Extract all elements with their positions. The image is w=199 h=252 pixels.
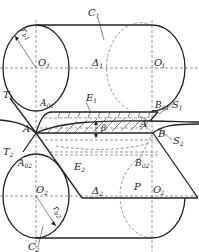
label-o1: O1 (38, 57, 50, 69)
c2-leader (38, 226, 43, 247)
upper-band-hatching (58, 112, 150, 118)
upper-roll (0, 18, 199, 252)
label-p: P (133, 181, 141, 192)
label-o1-prime: O′1 (154, 56, 165, 69)
label-rb1: rb1 (18, 26, 34, 42)
upper-band-right-edge (150, 112, 158, 121)
lower-band-dashed-curve (56, 143, 150, 149)
beta-arrow-head-down (94, 134, 98, 138)
label-e2: E2 (73, 161, 85, 173)
b02-dashed-link (140, 133, 153, 158)
label-a: A (22, 123, 30, 134)
c1-leader (98, 18, 104, 40)
label-delta1: Δ1 (91, 57, 103, 69)
label-o2: O2 (36, 184, 48, 196)
radius-rb1-arrowhead (15, 36, 19, 41)
label-s1: S1 (172, 99, 183, 111)
label-beta: β (100, 123, 106, 133)
radius-rb2-arrowhead (51, 221, 56, 226)
label-c2: C2 (28, 241, 40, 252)
label-c1: C1 (88, 7, 99, 19)
label-o2-prime: O′2 (153, 183, 165, 196)
label-t1: T1 (3, 89, 14, 101)
label-delta2: Δ2 (91, 185, 103, 197)
label-a02: A02 (17, 158, 32, 169)
t2-tangent-line-left (23, 133, 36, 152)
label-a01: A01 (39, 98, 54, 109)
roll-geometry-diagram: C1 rb1 O1 Δ1 O′1 T1 A01 E1 B01 S1 A β A′… (0, 0, 199, 252)
lower-roll-right-end-visible (152, 198, 185, 238)
label-b01: B01 (154, 100, 169, 111)
label-s2: S2 (173, 135, 184, 147)
label-t2: T2 (3, 146, 14, 158)
upper-roll-right-end-hidden (107, 23, 152, 110)
label-e1: E1 (85, 92, 97, 104)
label-b: B (157, 128, 165, 139)
contact-geometry (0, 98, 199, 198)
label-b02: B02 (134, 158, 149, 169)
